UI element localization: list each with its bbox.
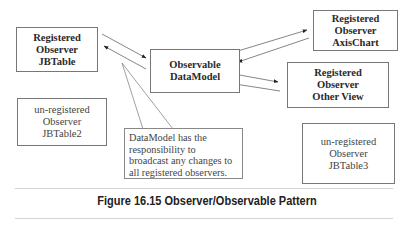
node-label-line: DataModel [170,71,220,83]
arrow-jbtable-to-datamodel [102,34,146,58]
node-label-line: Registered [332,13,380,25]
node-label-line: Registered [33,32,81,44]
callout-note: DataModel has the responsibility to broa… [124,128,243,179]
node-label-line: Observer [335,25,377,37]
node-label-line: AxisChart [332,37,379,49]
caption-rule-bottom [15,218,393,219]
figure-caption: Figure 16.15 Observer/Observable Pattern [25,194,389,208]
node-label-line: un-registered [321,136,376,148]
node-label-line: Other View [312,91,363,103]
node-label-line: un-registered [34,104,89,116]
arrow-otherview-to-datamodel [235,84,280,91]
node-label-line: Observer [329,148,367,160]
node-label-line: Observer [36,44,78,56]
node-label-line: JBTable2 [42,128,82,140]
node-registered-observer-axischart: Registered Observer AxisChart [313,10,398,51]
callout-line: DataModel has the [129,132,238,144]
arrow-axischart-to-datamodel [238,38,309,62]
node-label-line: JBTable [39,56,76,68]
node-unregistered-observer-jbtable2: un-registered Observer JBTable2 [17,98,107,146]
node-label-line: JBTable3 [329,160,369,172]
node-label-line: Observer [317,79,359,91]
callout-line: broadcast any changes to [129,155,238,167]
arrow-datamodel-to-otherview [234,74,278,82]
node-registered-observer-other-view: Registered Observer Other View [287,62,389,108]
caption-rule-top [15,188,393,189]
node-observable-datamodel: Observable DataModel [150,49,240,93]
node-label-line: Observer [43,116,81,128]
callout-line: responsibility to [129,144,238,156]
arrow-datamodel-to-jbtable [104,46,146,69]
node-label-line: Registered [314,67,362,79]
node-registered-observer-jbtable: Registered Observer JBTable [16,27,98,72]
callout-line: all registered observers. [129,167,238,179]
node-unregistered-observer-jbtable3: un-registered Observer JBTable3 [302,123,395,184]
node-label-line: Observable [169,59,220,71]
